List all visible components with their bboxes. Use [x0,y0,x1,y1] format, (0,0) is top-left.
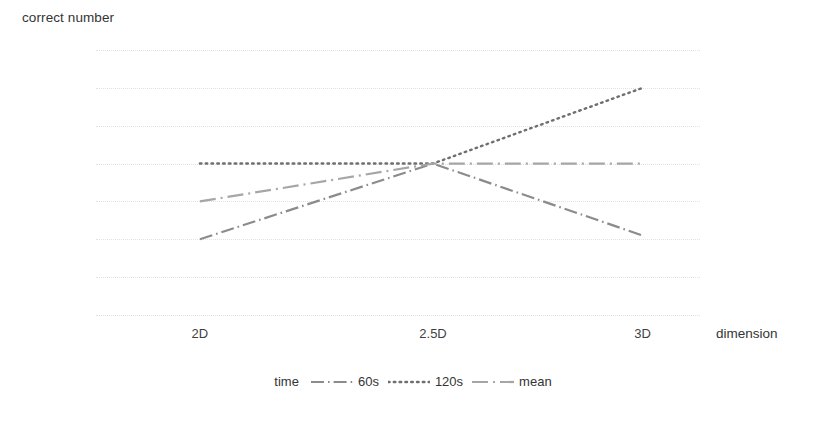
y-axis-title: correct number [22,10,114,25]
series-line-mean [200,164,643,202]
legend-label-mean: mean [519,374,552,389]
legend-swatch-mean [472,376,514,388]
plot-area: 1515.51616.51717.51818.5 2D2.5D3D [96,50,700,315]
line-chart: correct number 1515.51616.51717.51818.5 … [0,0,832,427]
legend-swatch-60s [311,376,353,388]
x-axis-title: dimension [716,326,778,341]
legend-entry-60s[interactable]: 60s [308,374,385,389]
series-line-120s [200,88,643,164]
legend-entry-mean[interactable]: mean [469,374,558,389]
legend-entry-120s[interactable]: 120s [385,374,469,389]
x-tick-label: 2.5D [419,326,446,341]
gridline [96,315,700,316]
legend-label-60s: 60s [358,374,379,389]
x-tick-label: 3D [634,326,651,341]
x-tick-label: 2D [192,326,209,341]
legend: time 60s120smean [0,374,832,389]
series-layer [96,50,700,315]
series-line-60s [200,164,643,240]
legend-swatch-120s [388,376,430,388]
legend-label-120s: 120s [435,374,463,389]
legend-title: time [274,374,299,389]
